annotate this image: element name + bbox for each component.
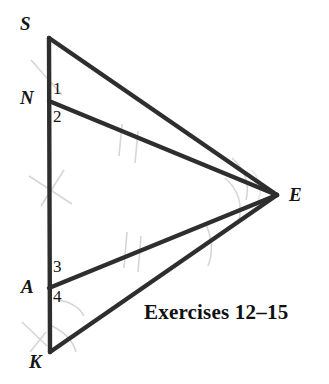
pencil-tick-lower-1 xyxy=(124,232,127,268)
angle-label-2: 2 xyxy=(53,108,62,125)
pencil-mark-mid-left-b xyxy=(41,170,64,206)
segment-SK xyxy=(49,38,50,352)
vertex-label-K: K xyxy=(29,352,42,371)
figure-caption: Exercises 12–15 xyxy=(144,300,288,325)
angle-label-3: 3 xyxy=(53,258,62,275)
pencil-tick-lower-2 xyxy=(138,236,141,272)
vertex-label-N: N xyxy=(20,88,34,107)
vertex-label-A: A xyxy=(21,277,34,296)
pencil-mark-lower-left xyxy=(22,322,47,346)
angle-label-1: 1 xyxy=(53,80,62,97)
vertex-label-S: S xyxy=(20,14,31,33)
vertex-label-E: E xyxy=(289,185,302,204)
geometry-figure: S N A K E 1 2 3 4 Exercises 12–15 xyxy=(0,0,329,384)
pencil-arc-angle-A xyxy=(60,300,84,316)
figure-canvas xyxy=(0,0,329,384)
angle-label-4: 4 xyxy=(53,288,62,305)
